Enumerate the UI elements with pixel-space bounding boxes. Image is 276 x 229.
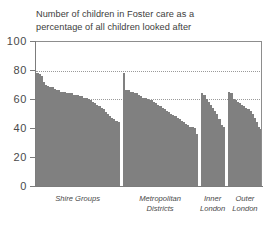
y-axis-label: 60 [14, 93, 27, 105]
bar [195, 134, 198, 186]
group-label: Outer London [200, 194, 276, 213]
y-axis-label: 80 [14, 64, 27, 76]
y-axis-label: 0 [20, 180, 27, 192]
y-axis-tick [30, 41, 35, 42]
chart-title-line-2: percentage of all children looked after [36, 21, 262, 34]
group-label: Shire Groups [33, 194, 123, 204]
y-axis-label: 40 [14, 122, 27, 134]
y-axis-tick [30, 128, 35, 129]
foster-care-bar-chart: Number of children in Foster care as a p… [0, 0, 276, 229]
y-axis-label: 100 [7, 35, 27, 47]
bar [222, 127, 225, 186]
y-axis-tick [30, 70, 35, 71]
y-axis-tick [30, 186, 35, 187]
plot-area [36, 41, 262, 186]
bar [117, 122, 120, 186]
y-axis-tick [30, 157, 35, 158]
reference-line [36, 71, 262, 72]
chart-title: Number of children in Foster care as a p… [36, 8, 262, 33]
x-axis-line [35, 186, 263, 187]
y-axis-label: 20 [14, 151, 27, 163]
chart-title-line-1: Number of children in Foster care as a [36, 8, 262, 21]
y-axis-tick [30, 99, 35, 100]
bar [260, 129, 262, 186]
